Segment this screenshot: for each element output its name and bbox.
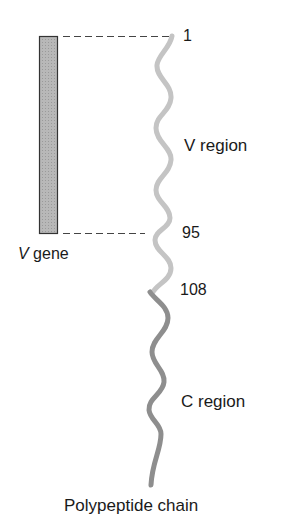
- v-gene-label: V gene: [18, 246, 69, 262]
- c-region-label: C region: [181, 393, 245, 410]
- position-label-108: 108: [180, 282, 207, 298]
- position-label-1: 1: [183, 28, 192, 44]
- v-gene-bar: [40, 37, 58, 234]
- v-gene-label-text: gene: [29, 245, 69, 262]
- v-region-chain: [153, 36, 172, 292]
- v-region-label: V region: [184, 137, 247, 154]
- chain-title: Polypeptide chain: [64, 497, 198, 514]
- v-gene-label-italic: V: [18, 245, 29, 262]
- c-region-chain: [149, 292, 168, 485]
- position-label-95: 95: [182, 225, 200, 241]
